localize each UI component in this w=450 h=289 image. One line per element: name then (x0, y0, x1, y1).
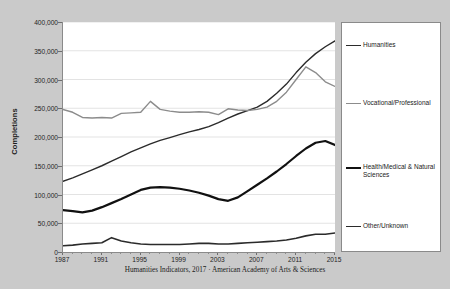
legend-item[interactable]: Other/Unknown (346, 222, 442, 230)
legend-item-label: Vocational/Professional (363, 99, 431, 107)
legend-item-label: Health/Medical & Natural Sciences (363, 163, 442, 180)
series-line (63, 141, 335, 212)
x-axis-tick-label: 1995 (132, 256, 147, 263)
y-axis-tick-label: 50,000 (0, 220, 58, 227)
completions-line-chart: Completions 050,000100,000150,000200,000… (0, 0, 450, 289)
y-axis-tick-label: 400,000 (0, 19, 58, 26)
legend-color-swatch (346, 167, 361, 169)
legend-item[interactable]: Humanities (346, 41, 442, 49)
x-axis-tick-label: 2003 (210, 256, 225, 263)
y-axis-tick-label: 100,000 (0, 191, 58, 198)
x-axis-tick-label: 2011 (288, 256, 302, 263)
x-axis-tick-label: 2007 (249, 256, 264, 263)
x-axis-tick-label: 2015 (327, 256, 342, 263)
y-axis-tick-label: 150,000 (0, 162, 58, 169)
x-axis-tick-label: 1991 (94, 256, 109, 263)
legend-item[interactable]: Health/Medical & Natural Sciences (346, 163, 442, 180)
x-axis-tick-label: 1987 (55, 256, 70, 263)
legend-item-label: Other/Unknown (363, 222, 408, 230)
plot-area (62, 22, 335, 253)
y-axis-tick-label: 350,000 (0, 47, 58, 54)
legend-color-swatch (346, 103, 361, 104)
y-axis-tick-label: 200,000 (0, 134, 58, 141)
legend-item-label: Humanities (363, 41, 396, 49)
series-canvas (63, 22, 335, 252)
source-caption: Humanities Indicators, 2017 · American A… (0, 266, 450, 274)
chart-legend: HumanitiesVocational/ProfessionalHealth/… (341, 22, 441, 252)
legend-item[interactable]: Vocational/Professional (346, 99, 442, 107)
legend-color-swatch (346, 45, 361, 46)
legend-color-swatch (346, 226, 361, 227)
y-axis-tick-label: 250,000 (0, 105, 58, 112)
x-axis-tick-label: 1999 (171, 256, 186, 263)
series-line (63, 233, 335, 246)
y-axis-title-label: Completions (10, 108, 19, 155)
y-axis-tick-label: 300,000 (0, 76, 58, 83)
y-axis-tick-label: 0 (0, 249, 58, 256)
